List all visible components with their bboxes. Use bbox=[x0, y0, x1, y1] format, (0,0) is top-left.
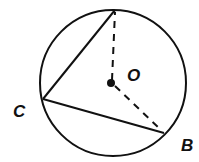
center-point-o bbox=[107, 79, 115, 87]
label-c: C bbox=[13, 102, 26, 121]
radius-oa bbox=[112, 12, 115, 80]
chord-ac bbox=[43, 10, 115, 99]
label-o: O bbox=[127, 66, 140, 85]
radius-ob bbox=[115, 86, 160, 129]
label-b: B bbox=[181, 136, 193, 155]
circle-diagram: O C B bbox=[0, 0, 199, 162]
